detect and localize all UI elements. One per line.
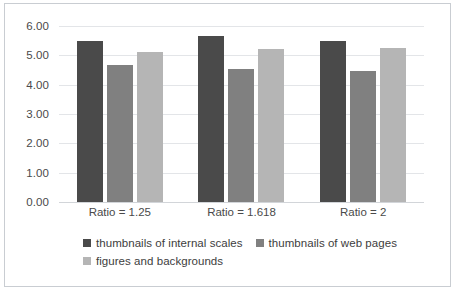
bar-group: [59, 26, 181, 202]
legend-row: thumbnails of internal scalesthumbnails …: [59, 234, 439, 252]
bar: [77, 41, 103, 202]
bar: [258, 49, 284, 202]
bar: [198, 36, 224, 202]
legend-swatch-icon: [256, 239, 264, 247]
bar: [380, 48, 406, 202]
legend-label: thumbnails of internal scales: [96, 237, 243, 249]
x-axis-category-label: Ratio = 1.25: [89, 206, 151, 218]
legend-label: thumbnails of web pages: [269, 237, 397, 249]
legend-swatch-icon: [83, 257, 91, 265]
bar-group: [302, 26, 424, 202]
bar: [350, 71, 376, 202]
legend-item[interactable]: thumbnails of web pages: [256, 237, 397, 249]
bar: [228, 69, 254, 202]
y-axis-tick-label: 1.00: [26, 167, 49, 179]
x-axis-category-label: Ratio = 1.618: [207, 206, 276, 218]
bar: [137, 52, 163, 202]
x-axis: Ratio = 1.25Ratio = 1.618Ratio = 2: [59, 204, 424, 224]
legend-row: figures and backgrounds: [59, 252, 439, 270]
legend-label: figures and backgrounds: [96, 255, 223, 267]
y-axis-tick-label: 6.00: [26, 20, 49, 32]
y-axis: 6.005.004.003.002.001.000.00: [5, 26, 55, 202]
bars-layer: [59, 26, 424, 202]
y-axis-tick-label: 2.00: [26, 137, 49, 149]
y-axis-tick-label: 4.00: [26, 79, 49, 91]
legend-item[interactable]: thumbnails of internal scales: [83, 237, 243, 249]
gridline-0.00: [59, 202, 424, 203]
bar: [107, 65, 133, 202]
legend-swatch-icon: [83, 239, 91, 247]
bar: [320, 41, 346, 202]
bar-group: [181, 26, 303, 202]
chart-legend: thumbnails of internal scalesthumbnails …: [59, 234, 439, 270]
y-axis-tick-label: 3.00: [26, 108, 49, 120]
chart-card: 6.005.004.003.002.001.000.00 Ratio = 1.2…: [4, 3, 451, 287]
y-axis-tick-label: 5.00: [26, 49, 49, 61]
x-axis-category-label: Ratio = 2: [340, 206, 386, 218]
y-axis-tick-label: 0.00: [26, 196, 49, 208]
legend-item[interactable]: figures and backgrounds: [83, 255, 223, 267]
